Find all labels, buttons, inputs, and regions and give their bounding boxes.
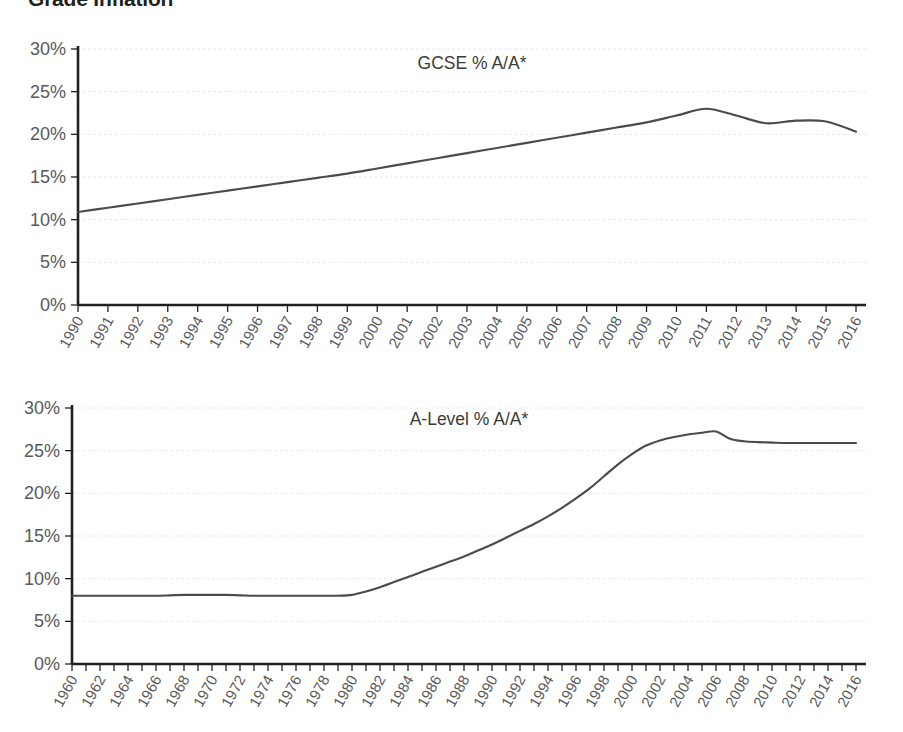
- x-tick-label: 2014: [806, 672, 837, 709]
- x-tick-label: 2010: [750, 672, 781, 709]
- y-tick-label: 10%: [24, 569, 60, 589]
- x-tick-label: 1999: [325, 313, 356, 350]
- x-tick-label: 1990: [470, 672, 501, 709]
- x-tick-label: 1980: [330, 672, 361, 709]
- x-tick-label: 1964: [106, 672, 137, 709]
- x-tick-label: 1996: [554, 672, 585, 709]
- y-tick-label: 15%: [30, 167, 66, 187]
- alevel-gridlines: [72, 408, 866, 621]
- x-tick-label: 1992: [115, 313, 146, 350]
- x-tick-label: 1995: [205, 313, 236, 350]
- x-tick-label: 2013: [744, 313, 775, 350]
- x-tick-label: 1968: [162, 672, 193, 709]
- x-tick-label: 2009: [624, 313, 655, 350]
- y-tick-label: 5%: [34, 611, 60, 631]
- x-tick-label: 2005: [504, 313, 535, 350]
- x-tick-label: 2004: [474, 313, 505, 350]
- x-tick-label: 1962: [78, 672, 109, 709]
- x-tick-label: 2001: [385, 313, 416, 350]
- x-tick-label: 2000: [610, 672, 641, 709]
- alevel-y-tick-labels: 0%5%10%15%20%25%30%: [24, 398, 60, 674]
- x-tick-label: 2011: [684, 313, 715, 349]
- y-tick-label: 25%: [24, 441, 60, 461]
- x-tick-label: 1991: [85, 313, 116, 350]
- chart-alevel-canvas: 0%5%10%15%20%25%30% 19601962196419661968…: [0, 392, 903, 732]
- gcse-series-line: [78, 109, 856, 212]
- y-tick-label: 20%: [30, 124, 66, 144]
- x-tick-label: 1960: [50, 672, 81, 709]
- x-tick-label: 1970: [190, 672, 221, 709]
- x-tick-label: 2016: [834, 672, 865, 709]
- x-tick-label: 2003: [445, 313, 476, 350]
- gcse-series-title: GCSE % A/A*: [418, 53, 527, 73]
- x-tick-label: 1997: [265, 313, 296, 350]
- y-tick-label: 5%: [40, 252, 66, 272]
- x-tick-label: 2006: [694, 672, 725, 709]
- chart-gcse-canvas: 0%5%10%15%20%25%30% 19901991199219931994…: [0, 36, 903, 388]
- x-tick-label: 1976: [274, 672, 305, 709]
- x-tick-label: 2012: [714, 313, 745, 350]
- x-tick-label: 1988: [442, 672, 473, 709]
- x-tick-label: 1972: [218, 672, 249, 709]
- x-tick-label: 2008: [722, 672, 753, 709]
- x-tick-label: 2002: [638, 672, 669, 709]
- gcse-y-tick-labels: 0%5%10%15%20%25%30%: [30, 39, 66, 315]
- x-tick-label: 1990: [56, 313, 87, 350]
- x-tick-label: 2012: [778, 672, 809, 709]
- x-tick-label: 2016: [834, 313, 865, 350]
- x-tick-label: 2004: [666, 672, 697, 709]
- x-tick-label: 2010: [654, 313, 685, 350]
- y-tick-label: 30%: [24, 398, 60, 418]
- x-tick-label: 1966: [134, 672, 165, 709]
- x-tick-label: 1984: [386, 672, 417, 709]
- x-tick-label: 2008: [594, 313, 625, 350]
- y-tick-label: 10%: [30, 210, 66, 230]
- x-tick-label: 1978: [302, 672, 333, 709]
- y-tick-label: 0%: [40, 295, 66, 315]
- x-tick-label: 1974: [246, 672, 277, 709]
- x-tick-label: 1982: [358, 672, 389, 709]
- gcse-x-tick-labels: 1990199119921993199419951996199719981999…: [56, 313, 865, 350]
- chart-alevel: 0%5%10%15%20%25%30% 19601962196419661968…: [0, 392, 903, 732]
- alevel-series-title: A-Level % A/A*: [410, 409, 529, 429]
- x-tick-label: 1998: [582, 672, 613, 709]
- chart-gcse: 0%5%10%15%20%25%30% 19901991199219931994…: [0, 36, 903, 388]
- page-title: Grade Inflation: [28, 0, 173, 11]
- x-tick-label: 2015: [804, 313, 835, 350]
- y-tick-label: 25%: [30, 82, 66, 102]
- x-tick-label: 2002: [415, 313, 446, 350]
- y-tick-label: 15%: [24, 526, 60, 546]
- x-tick-label: 1992: [498, 672, 529, 709]
- y-tick-label: 0%: [34, 654, 60, 674]
- y-tick-label: 30%: [30, 39, 66, 59]
- x-tick-label: 1994: [526, 672, 557, 709]
- x-tick-label: 1996: [235, 313, 266, 350]
- x-tick-label: 1993: [145, 313, 176, 350]
- alevel-series-line: [72, 431, 856, 596]
- x-tick-label: 2006: [534, 313, 565, 350]
- x-tick-label: 2014: [774, 313, 805, 350]
- x-tick-label: 1994: [175, 313, 206, 350]
- x-tick-label: 1986: [414, 672, 445, 709]
- alevel-x-tick-labels: 1960196219641966196819701972197419761978…: [50, 672, 865, 709]
- x-tick-label: 1998: [295, 313, 326, 350]
- x-tick-label: 2007: [564, 313, 595, 350]
- y-tick-label: 20%: [24, 483, 60, 503]
- gcse-gridlines: [78, 49, 866, 262]
- x-tick-label: 2000: [355, 313, 386, 350]
